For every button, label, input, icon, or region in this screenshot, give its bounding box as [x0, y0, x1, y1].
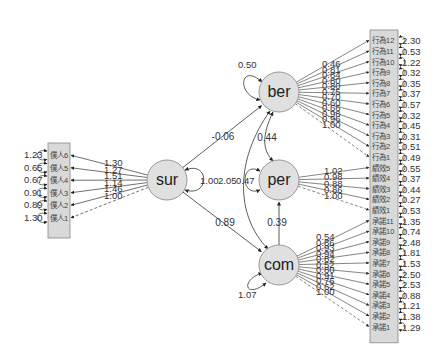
indicator-label: 行為11	[372, 46, 394, 56]
loading-value: 1.00	[316, 286, 335, 297]
error-variance-value: 0.37	[402, 88, 421, 99]
error-variance-value: 0.65	[24, 162, 43, 173]
indicator-label: 行為1	[372, 152, 390, 162]
indicator-label: 承諾9	[372, 237, 390, 247]
latent-label: sur	[156, 171, 179, 188]
latent-label: com	[264, 256, 294, 273]
error-variance-value: 0.57	[402, 99, 421, 110]
indicator-label: 承諾1	[372, 322, 390, 332]
indicator-label: 行為3	[372, 131, 390, 141]
error-variance-value: 0.27	[402, 194, 421, 205]
indicator-label: 行為5	[372, 110, 390, 120]
indicator-label: 績效4	[372, 173, 390, 183]
error-variance-value: 0.32	[402, 67, 421, 78]
error-variance-value: 1.29	[402, 322, 421, 333]
path-sur-per-value: 2.05	[218, 175, 237, 186]
indicator-label: 績效5	[372, 163, 390, 173]
error-variance-value: 1.30	[24, 212, 43, 223]
indicator-label: 承諾10	[372, 226, 394, 236]
error-variance-value: 2.48	[402, 237, 421, 248]
indicator-label: 績效1	[372, 205, 390, 215]
indicator-label: 僕人3	[50, 188, 68, 198]
indicator-label: 行為7	[372, 88, 390, 98]
error-variance-value: 1.53	[402, 258, 421, 269]
indicator-label: 承諾2	[372, 311, 390, 321]
indicator-label: 行為10	[372, 57, 394, 67]
error-variance-value: 0.89	[24, 199, 43, 210]
indicator-label: 行為12	[372, 35, 394, 45]
per-variance-value: 0.47	[236, 175, 255, 186]
latent-per: per	[259, 160, 299, 200]
value-labels: 1.301.231.270.651.510.671.140.911.460.89…	[24, 35, 421, 332]
indicator-label: 僕人4	[50, 175, 68, 185]
indicator-label: 行為2	[372, 141, 390, 151]
indicator-label: 行為4	[372, 120, 390, 130]
error-variance-value: 1.23	[24, 149, 43, 160]
indicator-label: 行為8	[372, 78, 390, 88]
error-variance-value: 0.67	[24, 174, 43, 185]
error-variance-value: 0.53	[402, 205, 421, 216]
loading-value: 1.00	[324, 190, 343, 201]
indicator-label: 承諾5	[372, 279, 390, 289]
latent-sur: sur	[147, 160, 187, 200]
indicator-label: 承諾8	[372, 247, 390, 257]
error-variance-value: 0.91	[24, 187, 43, 198]
indicator-label: 承諾3	[372, 300, 390, 310]
indicator-label: 行為9	[372, 67, 390, 77]
error-variance-value: 2.50	[402, 269, 421, 280]
path-ber-per-value: 0.44	[257, 132, 277, 143]
indicator-label: 僕人2	[50, 200, 68, 210]
com-variance-value: 1.07	[238, 289, 257, 300]
error-variance-value: 0.88	[402, 290, 421, 301]
latent-ber: ber	[259, 72, 299, 112]
error-variance-value: 0.35	[402, 78, 421, 89]
error-variance-value: 0.74	[402, 226, 421, 237]
indicator-label: 承諾7	[372, 258, 390, 268]
error-variance-value: 1.81	[402, 247, 421, 258]
error-variance-value: 2.53	[402, 279, 421, 290]
indicator-label: 承諾6	[372, 269, 390, 279]
error-variance-value: 0.32	[402, 110, 421, 121]
latent-com: com	[259, 245, 299, 285]
loading-value: 1.00	[104, 190, 123, 201]
indicator-label: 績效3	[372, 184, 390, 194]
path-sur-ber-value: -0.06	[212, 131, 235, 142]
error-variance-value: 1.21	[402, 300, 421, 311]
indicator-label: 承諾4	[372, 290, 390, 300]
latent-label: ber	[267, 83, 291, 100]
error-variance-value: 0.37	[402, 173, 421, 184]
sem-path-diagram: 僕人6僕人5僕人4僕人3僕人2僕人1行為12行為11行為10行為9行為8行為7行…	[0, 0, 441, 353]
error-variance-value: 2.30	[402, 35, 421, 46]
indicator-label: 僕人5	[50, 163, 68, 173]
error-variance-value: 0.53	[402, 46, 421, 57]
path-sur-com-value: 0.89	[215, 217, 235, 228]
path-com-per-value: 0.39	[267, 217, 287, 228]
error-variance-value: 0.44	[402, 184, 421, 195]
error-variance-value: 0.49	[402, 152, 421, 163]
error-variance-value: 0.51	[402, 141, 421, 152]
error-variance-value: 0.31	[402, 131, 421, 142]
error-variance-value: 0.45	[402, 120, 421, 131]
latent-label: per	[267, 171, 291, 188]
error-variance-value: 1.38	[402, 311, 421, 322]
ber-variance-value: 0.50	[238, 59, 257, 70]
indicator-label: 承諾11	[372, 216, 394, 226]
sur-variance-value: 1.00	[200, 175, 219, 186]
loading-value: 1.00	[322, 119, 341, 130]
error-variance-value: 1.22	[402, 57, 421, 68]
indicator-label: 僕人6	[50, 150, 68, 160]
error-variance-value: 1.35	[402, 216, 421, 227]
indicator-label: 績效2	[372, 194, 390, 204]
error-variance-value: 0.55	[402, 163, 421, 174]
indicator-label: 行為6	[372, 99, 390, 109]
indicator-label: 僕人1	[50, 213, 68, 223]
